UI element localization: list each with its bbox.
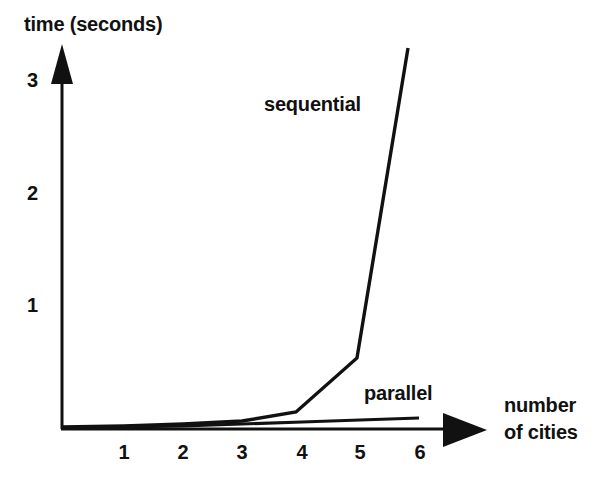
x-tick-label-2: 2	[171, 441, 195, 464]
x-axis-arrowhead	[443, 413, 487, 447]
y-axis-arrowhead	[51, 44, 73, 84]
chart-figure: time (seconds) numberof cities sequentia…	[0, 0, 605, 485]
y-tick-label-2: 2	[16, 182, 38, 205]
x-tick-label-3: 3	[230, 441, 254, 464]
x-tick-label-1: 1	[112, 441, 136, 464]
x-axis-title-line1: number	[504, 394, 576, 416]
y-axis-title: time (seconds)	[24, 13, 162, 37]
series-label-parallel: parallel	[364, 382, 432, 406]
x-axis-title-line2: of cities	[504, 421, 578, 443]
x-tick-label-6: 6	[408, 441, 432, 464]
x-tick-label-5: 5	[348, 441, 372, 464]
series-label-sequential: sequential	[264, 93, 361, 117]
y-tick-label-3: 3	[16, 69, 38, 92]
y-tick-label-1: 1	[16, 294, 38, 317]
x-axis-title: numberof cities	[504, 392, 578, 446]
x-tick-label-4: 4	[290, 441, 314, 464]
